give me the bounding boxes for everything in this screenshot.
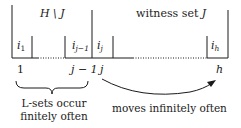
brace-annotation: L-sets occur finitely often — [18, 98, 90, 121]
region-label-h-minus-j: H \ J — [40, 8, 65, 19]
index-label-j-minus-1: j − 1 — [71, 64, 98, 75]
brace-annotation-line1: L-sets occur — [18, 98, 90, 109]
index-label-j: j — [100, 64, 103, 75]
brace-annotation-line2: finitely often — [18, 111, 90, 122]
curved-arrow — [102, 79, 212, 94]
index-label-h: h — [216, 64, 223, 75]
region-label-witness-set: witness set J — [136, 8, 206, 19]
cell-label-ih: ih — [211, 40, 219, 53]
witness-set-var: J — [202, 7, 206, 20]
cell-label-ij: ij — [97, 40, 103, 53]
cell-label-ij-1: ij−1 — [72, 40, 89, 53]
brace — [16, 81, 88, 94]
witness-set-text: witness set — [136, 7, 202, 20]
cell-label-i1: i1 — [17, 40, 25, 53]
arrow-annotation: moves infinitely often — [112, 103, 227, 114]
index-label-1: 1 — [17, 64, 24, 75]
